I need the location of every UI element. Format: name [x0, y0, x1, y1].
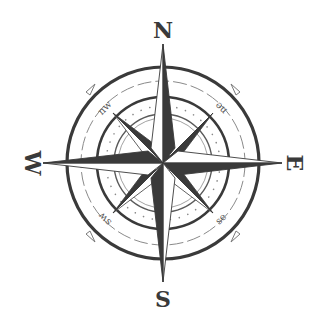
- label-southeast: se: [213, 211, 229, 227]
- label-northeast: ne: [212, 100, 229, 117]
- label-west: W: [20, 150, 46, 176]
- label-east: E: [282, 155, 308, 172]
- cardinal-points: [43, 44, 282, 282]
- label-north: N: [153, 17, 173, 43]
- compass-rose-icon: N S E W ne se sw nw: [0, 0, 320, 328]
- label-northwest: nw: [95, 98, 114, 117]
- label-south: S: [155, 286, 171, 312]
- compass-rose-figure: N S E W ne se sw nw: [0, 0, 320, 328]
